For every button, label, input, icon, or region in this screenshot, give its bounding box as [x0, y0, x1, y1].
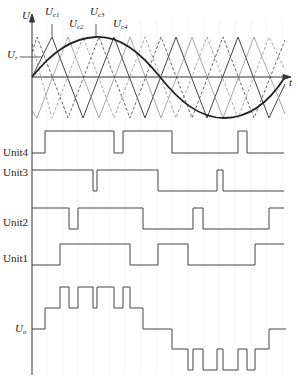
label-uo: Uo: [15, 322, 27, 336]
label-unit2: Unit2: [3, 216, 28, 228]
label-unit4: Unit4: [3, 146, 29, 158]
unit2-waveform: [32, 208, 284, 229]
label-uc3: Uc3: [90, 5, 105, 19]
axes: [30, 14, 292, 375]
y-axis-arrow-icon: [30, 14, 35, 22]
label-uc2: Uc2: [69, 17, 84, 31]
x-axis-label: t: [289, 76, 293, 88]
label-uc4: Uc4: [113, 17, 128, 31]
unit1-waveform: [32, 244, 284, 265]
y-axis-label: U: [22, 9, 31, 21]
pwm-diagram: U Uc1 Uc2 Uc3 Uc4 Ur t Unit4 Unit3 Unit2…: [0, 0, 298, 385]
output-voltage-waveform: [32, 287, 286, 370]
label-uc1: Uc1: [45, 5, 60, 19]
unit4-waveform: [32, 131, 284, 153]
unit3-waveform: [32, 170, 284, 191]
label-unit3: Unit3: [3, 166, 29, 178]
label-ur: Ur: [7, 48, 18, 62]
label-unit1: Unit1: [3, 252, 28, 264]
